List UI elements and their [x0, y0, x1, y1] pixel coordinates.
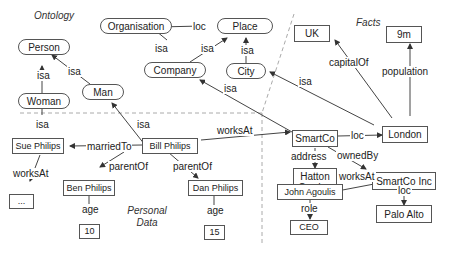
edge-label-smartcoinc-loc: loc: [397, 185, 412, 196]
entity-palo-alto[interactable]: Palo Alto: [376, 205, 432, 223]
section-personal-data: Personal Data: [124, 205, 170, 229]
entity-uk[interactable]: UK: [294, 25, 330, 42]
edge-label-capitalof: capitalOf: [328, 57, 369, 68]
class-woman[interactable]: Woman: [18, 93, 70, 109]
entity-london[interactable]: London: [382, 126, 428, 143]
edge-label-parentof-dan: parentOf: [172, 161, 213, 172]
entity-john-agoulis[interactable]: John Agoulis: [277, 184, 343, 200]
class-city[interactable]: City: [226, 63, 266, 79]
entity-ben-philips[interactable]: Ben Philips: [63, 180, 115, 196]
edge-label-ownedby-text: ownedBy: [336, 150, 379, 161]
edge-label-smartco-isa: isa: [223, 83, 238, 94]
edge-label-population: population: [381, 66, 429, 77]
entity-ceo[interactable]: CEO: [290, 220, 328, 235]
edge-label-london-isa: isa: [298, 76, 313, 87]
section-ontology: Ontology: [34, 10, 74, 22]
edge-label-ben-age: age: [81, 204, 100, 215]
class-organisation[interactable]: Organisation: [100, 18, 172, 34]
entity-age-15[interactable]: 15: [204, 225, 225, 240]
edge-label-marriedto: marriedTo: [86, 141, 132, 152]
entity-age-10[interactable]: 10: [79, 224, 100, 239]
edge-label-company-isa-place: isa: [200, 43, 215, 54]
edge-label-city-isa: isa: [240, 45, 255, 56]
class-person[interactable]: Person: [18, 39, 70, 55]
edge-label-dan-age: age: [206, 205, 225, 216]
class-place[interactable]: Place: [217, 18, 273, 34]
edge-label-sue-worksat: worksAt: [12, 168, 50, 179]
entity-bill-philips[interactable]: Bill Philips: [142, 138, 198, 154]
edge-label-man-isa: isa: [67, 66, 82, 77]
entity-sue-philips[interactable]: Sue Philips: [12, 138, 64, 154]
edge-label-address: address: [290, 151, 328, 162]
entity-9m[interactable]: 9m: [386, 26, 422, 43]
edge-label-john-worksat: worksAt: [338, 171, 376, 182]
edge-label-bill-isa: isa: [136, 119, 151, 130]
section-facts: Facts: [356, 17, 380, 29]
edge-label-parentof-ben: parentOf: [108, 161, 149, 172]
edge-label-role: role: [300, 203, 319, 214]
entity-dan-philips[interactable]: Dan Philips: [188, 180, 243, 196]
entity-smartco[interactable]: SmartCo: [292, 130, 338, 147]
class-man[interactable]: Man: [82, 84, 124, 100]
edge-label-org-loc: loc: [192, 21, 207, 32]
class-company[interactable]: Company: [144, 62, 206, 78]
edge-label-company-isa-org: isa: [154, 43, 169, 54]
edge-label-smartco-loc: loc: [350, 130, 365, 141]
edge-label-woman-isa: isa: [36, 70, 51, 81]
edge-label-bill-worksat: worksAt: [216, 125, 254, 136]
edge-label-sue-isa: isa: [35, 119, 50, 130]
entity-unknown[interactable]: ...: [9, 194, 34, 209]
